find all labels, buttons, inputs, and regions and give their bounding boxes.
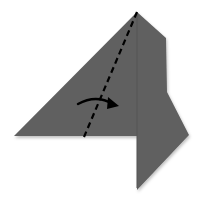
paper-shape bbox=[14, 12, 189, 190]
diagram-svg bbox=[0, 0, 203, 202]
origami-diagram bbox=[0, 0, 203, 202]
